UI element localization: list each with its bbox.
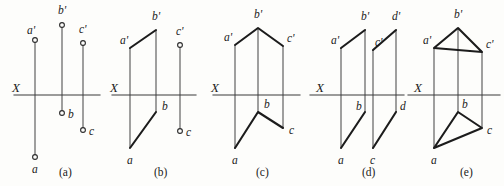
panel-caption-e: (e) <box>460 166 473 179</box>
b-prime-label: b' <box>152 10 161 22</box>
c-prime-label: c' <box>176 25 184 37</box>
triangle-abc <box>434 112 482 148</box>
a-point-label: a <box>32 163 38 175</box>
panel-e: Xa'b'c'abc(e) <box>408 8 500 179</box>
c-prime-label: c' <box>486 38 494 50</box>
panel-a: Xa'b'c'abc(a) <box>11 4 100 179</box>
panel-b: Xa'b'c'abc(b) <box>109 10 196 179</box>
c-point-label: c <box>186 126 191 138</box>
c-point-label: c <box>289 124 294 136</box>
d-prime-label: d' <box>392 10 401 22</box>
c-prime-marker <box>178 43 183 48</box>
axis-label-x: X <box>11 80 21 95</box>
segment-cd <box>373 112 396 148</box>
c-point-label: c <box>370 154 375 166</box>
b-point-label: b <box>68 108 74 120</box>
panel-caption-c: (c) <box>256 166 269 179</box>
c-prime-marker <box>81 41 86 46</box>
a-prime-label: a' <box>224 31 233 43</box>
axis-label-x: X <box>315 80 325 95</box>
segment-ab-prime <box>341 30 365 48</box>
b-point-label: b <box>162 100 168 112</box>
b-point-label: b <box>356 100 362 112</box>
projection-figure: Xa'b'c'abc(a)Xa'b'c'abc(b)Xa'b'c'abc(c)X… <box>0 0 504 186</box>
a-point-label: a <box>431 154 437 166</box>
b-point-label: b <box>264 98 270 110</box>
c-prime-label: c' <box>79 23 87 35</box>
polyline-abc <box>235 112 283 148</box>
panel-caption-d: (d) <box>362 166 376 179</box>
b-point-label: b <box>462 98 468 110</box>
b-prime-label: b' <box>454 8 463 20</box>
a-prime-marker <box>33 38 38 43</box>
b-prime-marker <box>60 23 65 28</box>
c-point-label: c <box>89 125 94 137</box>
b-point-marker <box>60 111 65 116</box>
panel-caption-a: (a) <box>59 166 72 179</box>
d-point-label: d <box>400 100 406 112</box>
b-prime-label: b' <box>361 10 370 22</box>
a-point-label: a <box>232 154 238 166</box>
c-prime-label: c' <box>375 36 383 48</box>
a-point-label: a <box>338 154 344 166</box>
panel-caption-b: (b) <box>154 166 168 179</box>
a-prime-label: a' <box>27 24 36 36</box>
figure-canvas: Xa'b'c'abc(a)Xa'b'c'abc(b)Xa'b'c'abc(c)X… <box>0 0 504 186</box>
axis-label-x: X <box>109 80 119 95</box>
a-prime-label: a' <box>120 34 129 46</box>
c-point-marker <box>81 128 86 133</box>
c-prime-label: c' <box>287 32 295 44</box>
axis-label-x: X <box>210 80 220 95</box>
a-prime-label: a' <box>331 34 340 46</box>
segment-ab <box>130 112 156 148</box>
b-prime-label: b' <box>58 4 67 16</box>
c-point-marker <box>178 129 183 134</box>
c-point-label: c <box>487 124 492 136</box>
b-prime-label: b' <box>254 8 263 20</box>
segment-ab-prime <box>130 30 156 48</box>
axis-label-x: X <box>413 80 423 95</box>
polyline-abc-prime <box>235 28 283 46</box>
panel-c: Xa'b'c'abc(c) <box>210 8 300 179</box>
a-point-marker <box>33 155 38 160</box>
panel-d: Xa'b'c'd'abcd(d) <box>310 10 406 179</box>
segment-ab <box>341 112 365 148</box>
a-prime-label: a' <box>423 34 432 46</box>
a-point-label: a <box>127 154 133 166</box>
